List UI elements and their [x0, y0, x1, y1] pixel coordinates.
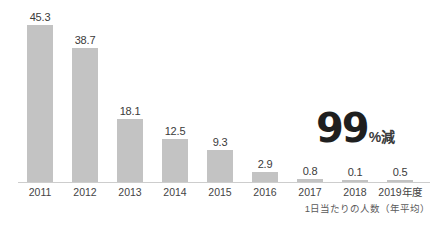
bar: [207, 150, 233, 182]
bar-slot: 2.9: [243, 6, 287, 182]
bar-value-label: 0.1: [333, 166, 377, 178]
reduction-callout-suffix: %減: [369, 130, 395, 144]
bar-value-label: 2.9: [243, 158, 287, 170]
bar-value-label: 45.3: [18, 11, 62, 23]
bar-slot: 9.3: [198, 6, 242, 182]
bar-value-label: 9.3: [198, 136, 242, 148]
bar-slot: 12.5: [153, 6, 197, 182]
bar: [117, 119, 143, 182]
bar-slot: 45.3: [18, 6, 62, 182]
bar-slot: 0.1: [333, 6, 377, 182]
chart-caption: 1日当たりの人数（年平均）: [305, 203, 430, 215]
bar-slot: 0.8: [288, 6, 332, 182]
bar-slot: 0.5: [378, 6, 422, 182]
bar-slot: 18.1: [108, 6, 152, 182]
plot-area: 45.3 38.7 18.1 12.5 9.3 2.9 0.8: [18, 6, 426, 182]
axis-tick-label: 2019年度: [374, 185, 426, 199]
bar-value-label: 12.5: [153, 125, 197, 137]
x-axis-line: [18, 182, 430, 183]
bar: [252, 172, 278, 182]
bar-value-label: 0.5: [378, 166, 422, 178]
bar: [72, 48, 98, 182]
x-axis-labels: 2011 2012 2013 2014 2015 2016 2017 2018 …: [18, 185, 426, 201]
bar-slot: 38.7: [63, 6, 107, 182]
reduction-callout: 99 %減: [316, 108, 395, 148]
bar: [27, 25, 53, 182]
reduction-callout-number: 99: [316, 108, 368, 148]
bar-value-label: 18.1: [108, 105, 152, 117]
bar-value-label: 0.8: [288, 165, 332, 177]
bar: [162, 139, 188, 182]
bar-chart: 45.3 38.7 18.1 12.5 9.3 2.9 0.8: [0, 0, 444, 227]
bar-value-label: 38.7: [63, 34, 107, 46]
